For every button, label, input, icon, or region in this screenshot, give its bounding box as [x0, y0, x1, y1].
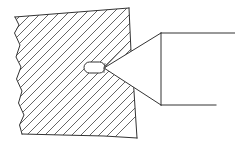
- engineering-line-drawing-canvas: [0, 0, 235, 149]
- cavity-group: [84, 62, 105, 73]
- capsule-cavity: [84, 62, 105, 73]
- technical-drawing-figure: [0, 0, 235, 149]
